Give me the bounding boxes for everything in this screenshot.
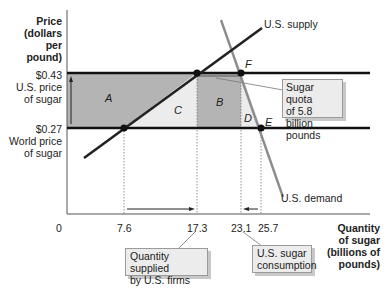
arrow-head-right-icon xyxy=(189,207,195,211)
callout-text: of 5.8 billion xyxy=(286,105,339,129)
y-axis-title: Price (dollars per pound) xyxy=(8,15,62,63)
callout-text: consumption xyxy=(257,259,307,271)
point-e-label: E xyxy=(265,116,272,128)
world-price-value: $0.27 xyxy=(0,123,62,135)
callout-text: pounds xyxy=(286,129,339,141)
point-e xyxy=(257,124,264,131)
world-price-label: $0.27 World price of sugar xyxy=(0,123,62,159)
supply-label: U.S. supply xyxy=(264,18,318,30)
callout-text: Sugar quota xyxy=(286,81,339,105)
y-title-line: per xyxy=(8,39,62,51)
x-tick-7-6: 7.6 xyxy=(117,222,132,234)
consumption-callout: U.S. sugar consumption xyxy=(252,245,312,273)
quota-callout: Sugar quota of 5.8 billion pounds xyxy=(282,79,343,118)
x-tick-17-3: 17.3 xyxy=(187,222,207,234)
area-c-label: C xyxy=(174,104,182,116)
area-d-label: D xyxy=(244,112,252,124)
arrow-head-left-icon xyxy=(243,207,249,211)
x-tick-23-1: 23.1 xyxy=(231,222,251,234)
us-price-text: of sugar xyxy=(4,93,62,105)
x-title-line: Quantity xyxy=(312,222,380,234)
callout-text: U.S. sugar xyxy=(257,247,307,259)
x-title-line: of sugar xyxy=(312,234,380,246)
point-f xyxy=(237,69,244,76)
supplied-callout: Quantity supplied by U.S. firms xyxy=(125,248,208,276)
us-price-label: $0.43 U.S. price of sugar xyxy=(4,69,62,105)
point-f-label: F xyxy=(245,58,252,70)
x-tick-0: 0 xyxy=(56,222,62,234)
us-price-value: $0.43 xyxy=(4,69,62,81)
y-title-line: (dollars xyxy=(8,27,62,39)
x-title-line: (billions of xyxy=(312,246,380,258)
point-world-supply xyxy=(120,124,127,131)
x-title-line: pounds) xyxy=(312,258,380,270)
x-tick-25-7: 25.7 xyxy=(258,222,278,234)
y-title-line: Price xyxy=(8,15,62,27)
area-b-label: B xyxy=(216,96,223,108)
x-axis-title: Quantity of sugar (billions of pounds) xyxy=(312,222,380,270)
point-us-supply xyxy=(193,69,200,76)
demand-label: U.S. demand xyxy=(281,192,342,204)
world-price-text: of sugar xyxy=(0,147,62,159)
callout-text: by U.S. firms xyxy=(130,274,203,286)
y-title-line: pound) xyxy=(8,51,62,63)
us-price-text: U.S. price xyxy=(4,81,62,93)
area-a-label: A xyxy=(105,92,112,104)
world-price-text: World price xyxy=(0,135,62,147)
consumption-leader xyxy=(243,232,262,246)
callout-text: Quantity supplied xyxy=(130,250,203,274)
